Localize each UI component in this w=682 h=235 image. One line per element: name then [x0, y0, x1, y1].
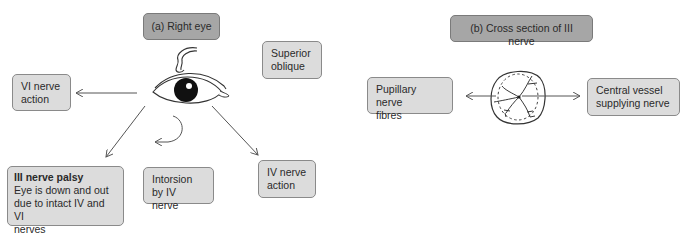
arrow-iv-action: [212, 106, 258, 155]
intorsion-line-1: Intorsion: [152, 173, 205, 186]
superior-oblique-label: Superior oblique: [262, 41, 322, 79]
vi-nerve-action-line-2: action: [21, 93, 62, 106]
iii-nerve-palsy-line-1: Eye is down and out: [14, 184, 117, 197]
vi-nerve-action-line-1: VI nerve: [21, 80, 62, 93]
central-vessel-line-2: supplying nerve: [596, 97, 671, 110]
iii-nerve-palsy-line-2: due to intact IV and VI: [14, 197, 117, 223]
iv-nerve-action-line-1: IV nerve: [267, 166, 307, 179]
vi-nerve-action-label: VI nerve action: [12, 74, 71, 111]
iii-nerve-palsy-label: III nerve palsy Eye is down and out due …: [7, 166, 124, 226]
intorsion-line-2: by IV nerve: [152, 186, 205, 212]
iv-nerve-action-line-2: action: [267, 179, 307, 192]
pupillary-fibres-label: Pupillary nerve fibres: [367, 77, 453, 114]
iv-nerve-action-label: IV nerve action: [258, 160, 316, 198]
superior-oblique-line-2: oblique: [271, 60, 313, 73]
pupillary-fibres-line-1: Pupillary nerve: [376, 83, 444, 109]
central-vessel-line-1: Central vessel: [596, 84, 671, 97]
pupillary-fibres-line-2: fibres: [376, 109, 444, 122]
superior-oblique-line-1: Superior: [271, 47, 313, 60]
arrow-iii-palsy: [106, 106, 145, 157]
iii-nerve-palsy-line-3: nerves: [14, 223, 117, 235]
superior-oblique-tendon-icon: [176, 48, 197, 73]
intorsion-label: Intorsion by IV nerve: [143, 167, 214, 204]
nerve-cross-section-icon: [491, 71, 545, 123]
panel-b-title: (b) Cross section of III nerve: [450, 15, 593, 42]
central-vessel-label: Central vessel supplying nerve: [587, 78, 680, 116]
panel-a-title: (a) Right eye: [143, 13, 220, 40]
intorsion-curved-arrow: [155, 116, 182, 142]
eye-icon: [153, 73, 229, 103]
iii-nerve-palsy-heading: III nerve palsy: [14, 171, 117, 184]
